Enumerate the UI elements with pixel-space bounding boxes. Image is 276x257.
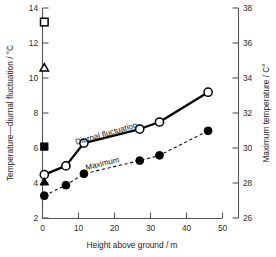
- data-point-s1-5: [204, 127, 212, 135]
- left-tick-label-14: 14: [29, 3, 39, 13]
- isolated-point-2: [41, 143, 48, 150]
- x-tick-label-50: 50: [218, 223, 228, 233]
- x-tick-label-40: 40: [182, 223, 192, 233]
- data-point-s1-3: [136, 157, 144, 165]
- data-point-s0-5: [204, 88, 212, 96]
- x-tick-label-0: 0: [40, 223, 45, 233]
- left-tick-label-12: 12: [29, 38, 39, 48]
- isolated-point-0: [41, 18, 49, 26]
- diurnal-fluctuation-chart: 14 12 10 8 6 4 2 Temperature—diurnal flu…: [0, 0, 276, 257]
- data-point-s0-1: [62, 162, 70, 170]
- x-tick-label-30: 30: [146, 223, 156, 233]
- data-point-s1-0: [40, 192, 48, 200]
- left-tick-label-2: 2: [33, 213, 38, 223]
- right-tick-label-28: 28: [243, 178, 253, 188]
- data-point-s0-4: [155, 118, 163, 126]
- data-point-s1-4: [156, 151, 164, 159]
- right-tick-label-38: 38: [243, 3, 253, 13]
- right-tick-label-36: 36: [243, 38, 253, 48]
- left-tick-label-4: 4: [33, 178, 38, 188]
- left-tick-label-10: 10: [29, 73, 39, 83]
- left-tick-label-8: 8: [33, 108, 38, 118]
- right-tick-label-30: 30: [243, 143, 253, 153]
- data-point-s1-1: [62, 181, 70, 189]
- right-tick-label-32: 32: [243, 108, 253, 118]
- right-tick-label-34: 34: [243, 73, 253, 83]
- x-tick-label-10: 10: [74, 223, 84, 233]
- x-axis-title: Height above ground / m: [87, 240, 178, 250]
- right-axis-title: Maximum temperature / C°: [261, 63, 271, 162]
- left-axis-title: Temperature—diurnal fluctuation / °C: [5, 45, 15, 181]
- right-tick-label-26: 26: [243, 213, 253, 223]
- x-tick-label-20: 20: [110, 223, 120, 233]
- left-tick-label-6: 6: [33, 143, 38, 153]
